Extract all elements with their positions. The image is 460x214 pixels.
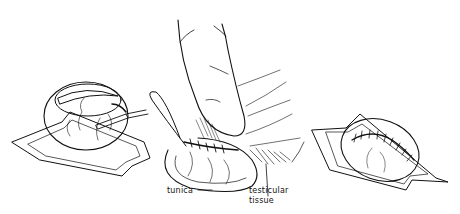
illustration-drawing <box>0 0 460 214</box>
surgical-illustration: tunica testicular tissue <box>0 0 460 214</box>
label-testicular: testicular <box>249 186 288 195</box>
right-panel-closed <box>312 108 448 192</box>
label-tissue: tissue <box>249 196 274 205</box>
center-panel-suturing <box>150 20 304 196</box>
left-panel-incision <box>12 82 150 176</box>
label-tunica: tunica <box>167 186 193 195</box>
